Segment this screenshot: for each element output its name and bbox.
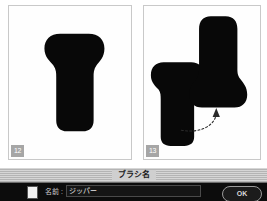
dotted-curved-arrow-head <box>213 108 220 117</box>
figure-panel-12-canvas <box>9 6 131 159</box>
name-field-label: 名前 : <box>45 187 63 196</box>
zipper-pull-shape <box>44 34 104 131</box>
brush-preview-swatch[interactable] <box>27 186 38 199</box>
brush-name-input-value: ジッパー <box>69 186 198 196</box>
figure-panel-12: 12 <box>8 5 132 160</box>
figure-panel-13-canvas <box>144 6 260 159</box>
brush-name-dialog: ブラシ名 名前 : ジッパー OK <box>0 168 267 201</box>
dialog-body: 名前 : ジッパー OK <box>0 183 267 201</box>
figure-badge-12: 12 <box>11 145 24 157</box>
figure-panel-13: 13 <box>143 5 261 160</box>
brush-name-input[interactable]: ジッパー <box>66 185 201 197</box>
dialog-title: ブラシ名 <box>112 170 156 180</box>
dialog-title-wrap: ブラシ名 <box>0 170 267 180</box>
dialog-titlebar[interactable]: ブラシ名 <box>0 168 267 183</box>
figure-strip: 12 13 <box>0 0 267 168</box>
zipper-pull-shape-large <box>189 16 247 107</box>
ok-button[interactable]: OK <box>222 186 262 201</box>
figure-badge-13: 13 <box>146 145 159 157</box>
